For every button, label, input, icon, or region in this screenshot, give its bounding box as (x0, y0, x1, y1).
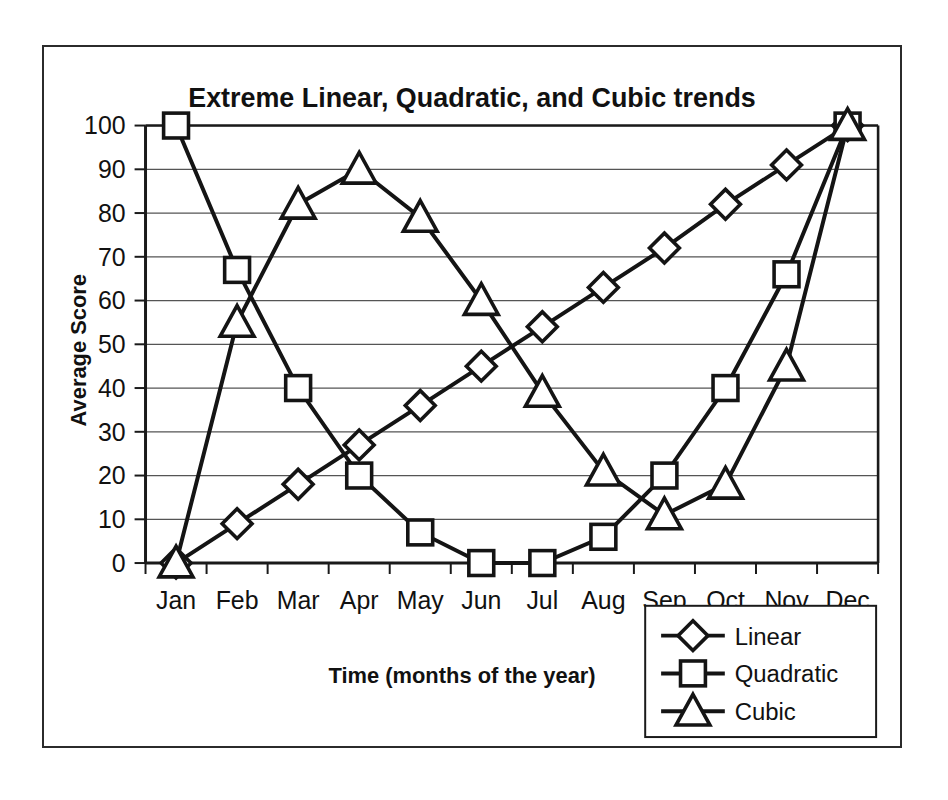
marker-quadratic (164, 113, 189, 138)
y-tick-label: 10 (98, 505, 126, 533)
marker-quadratic (591, 524, 616, 549)
marker-quadratic (530, 551, 555, 576)
y-tick-label: 100 (84, 112, 126, 140)
x-tick-label: Feb (216, 586, 259, 614)
marker-quadratic (225, 257, 250, 282)
legend-marker-quadratic (681, 661, 706, 686)
trend-line-chart: Extreme Linear, Quadratic, and Cubic tre… (44, 47, 900, 746)
x-tick-label: Jun (461, 586, 501, 614)
y-tick-label: 40 (98, 374, 126, 402)
legend-label-cubic: Cubic (735, 698, 796, 725)
chart-figure: Extreme Linear, Quadratic, and Cubic tre… (42, 45, 902, 748)
marker-quadratic (774, 262, 799, 287)
y-tick-label: 20 (98, 462, 126, 490)
y-tick-label: 50 (98, 330, 126, 358)
x-tick-label: Aug (581, 586, 625, 614)
y-tick-label: 70 (98, 243, 126, 271)
y-tick-label: 0 (112, 549, 126, 577)
chart-legend: LinearQuadraticCubic (645, 606, 876, 737)
legend-label-quadratic: Quadratic (735, 660, 839, 687)
x-tick-label: Mar (277, 586, 320, 614)
legend-label-linear: Linear (735, 623, 801, 650)
x-tick-label: Apr (340, 586, 379, 614)
x-tick-label: May (397, 586, 445, 614)
marker-quadratic (713, 376, 738, 401)
x-axis-title: Time (months of the year) (328, 663, 595, 688)
y-axis-title: Average Score (66, 274, 91, 426)
marker-quadratic (652, 463, 677, 488)
chart-title: Extreme Linear, Quadratic, and Cubic tre… (188, 83, 755, 113)
marker-quadratic (408, 520, 433, 545)
y-tick-label: 90 (98, 155, 126, 183)
marker-quadratic (286, 376, 311, 401)
marker-quadratic (347, 463, 372, 488)
y-tick-label: 30 (98, 418, 126, 446)
x-tick-label: Jan (156, 586, 196, 614)
y-tick-label: 80 (98, 199, 126, 227)
marker-quadratic (469, 551, 494, 576)
y-tick-label: 60 (98, 287, 126, 315)
x-tick-label: Jul (526, 586, 558, 614)
